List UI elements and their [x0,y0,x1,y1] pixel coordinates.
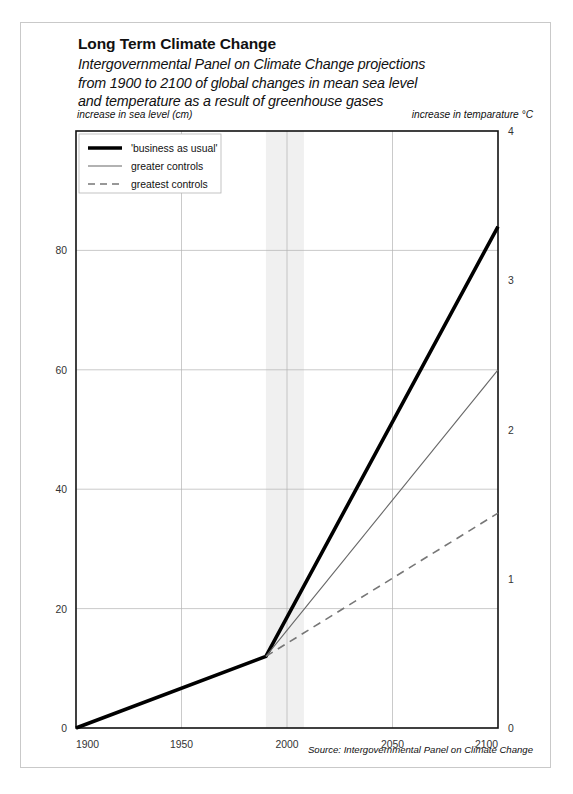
y-axis-tick-label: 60 [55,365,67,376]
x-axis-tick-label: 2000 [275,739,298,750]
y2-axis-tick-label: 4 [508,126,514,137]
shaded-band-region [266,131,304,728]
y-axis-tick-label: 80 [55,245,67,256]
x-axis-tick-label: 1950 [170,739,193,750]
legend-item-label: greatest controls [131,179,208,190]
source-note: Source: Intergovernmental Panel on Clima… [308,744,533,755]
y-axis-tick-label: 40 [55,484,67,495]
poster-frame: Long Term Climate Change Intergovernment… [20,22,551,768]
climate-projection-chart: 0204060800123419001950200020502100'busin… [21,23,552,769]
x-axis-tick-label: 1900 [76,739,99,750]
y2-axis-tick-label: 3 [508,275,514,286]
y-axis-tick-label: 20 [55,604,67,615]
legend-item-label: 'business as usual' [131,143,218,154]
y2-axis-tick-label: 0 [508,723,514,734]
y2-axis-tick-label: 1 [508,574,514,585]
legend-item-label: greater controls [131,161,203,172]
y-axis-tick-label: 0 [61,723,67,734]
y2-axis-tick-label: 2 [508,425,514,436]
